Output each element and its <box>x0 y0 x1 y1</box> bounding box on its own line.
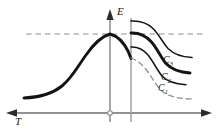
y-axis-top-arrow-icon <box>106 9 113 20</box>
x-axis-label: T <box>15 116 21 127</box>
origin-marker-icon <box>108 111 113 116</box>
curve-label-c2-subscript: 2 <box>168 77 171 84</box>
axes-group <box>6 9 212 122</box>
curve-label-c3-text: C <box>163 54 170 65</box>
x-axis-right-arrow-icon <box>201 109 212 117</box>
main-peak-curve <box>24 34 131 98</box>
curve-label-c2-text: C <box>161 71 168 82</box>
diagram-canvas <box>0 0 218 130</box>
energy-temperature-diagram: E T C3 C2 C1 <box>0 0 218 130</box>
y-axis-label: E <box>117 6 124 17</box>
curve-label-c1: C1 <box>158 83 168 96</box>
branch-curve-c3 <box>131 21 192 58</box>
curve-label-c3: C3 <box>163 55 173 68</box>
curve-label-c3-subscript: 3 <box>170 60 173 67</box>
curve-label-c1-text: C <box>158 82 165 93</box>
curve-label-c1-subscript: 1 <box>165 88 168 95</box>
